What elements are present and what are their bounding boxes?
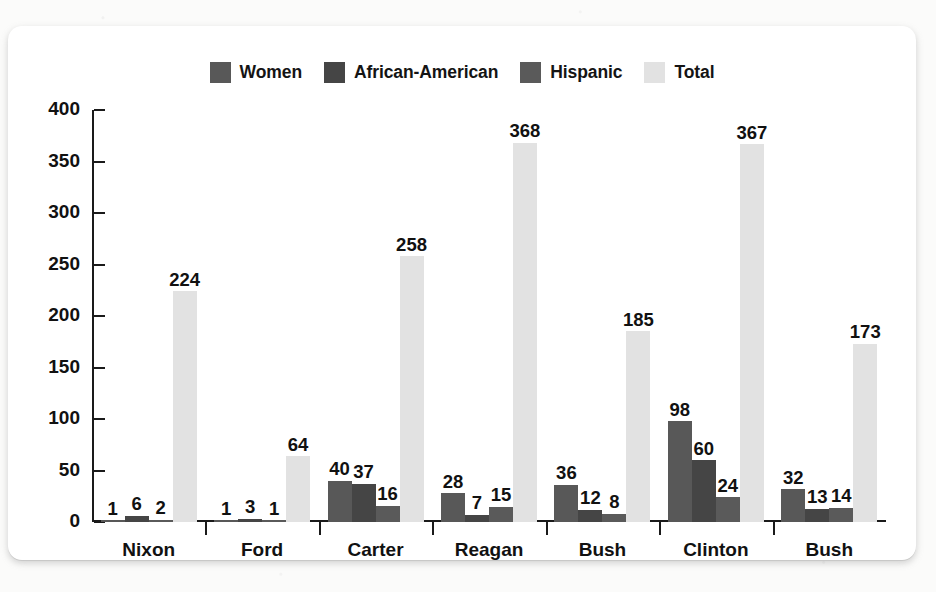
bar[interactable]: 24	[716, 497, 740, 522]
bar-value-label: 1	[221, 500, 231, 519]
bar-value-label: 36	[556, 464, 577, 483]
bar[interactable]: 36	[554, 485, 578, 522]
bar[interactable]: 40	[328, 481, 352, 522]
bar-group-bars: 162224	[101, 110, 197, 522]
bar-value-label: 8	[609, 493, 619, 512]
x-axis-category-label: Nixon	[92, 539, 205, 561]
legend-label-african-american: African-American	[354, 62, 498, 83]
bar-group-bars: 403716258	[328, 110, 424, 522]
bar-value-label: 32	[783, 469, 804, 488]
bar-value-label: 60	[694, 440, 715, 459]
scanned-page: Women African-American Hispanic Total 05…	[0, 0, 936, 592]
bar[interactable]: 12	[578, 510, 602, 522]
bar-value-label: 40	[329, 460, 350, 479]
bar-value-label: 15	[491, 486, 512, 505]
x-axis-separator-tick	[319, 522, 321, 535]
y-axis-tick-label: 300	[48, 201, 80, 223]
bar[interactable]: 1	[214, 520, 238, 522]
y-axis-tick-label: 200	[48, 304, 80, 326]
legend-label-hispanic: Hispanic	[550, 62, 622, 83]
bar[interactable]: 7	[465, 515, 489, 522]
bar-value-label: 3	[245, 498, 255, 517]
bar-value-label: 13	[807, 488, 828, 507]
bar[interactable]: 173	[853, 344, 877, 522]
bar-group-bars: 13164	[214, 110, 310, 522]
legend-item-african-american[interactable]: African-American	[324, 62, 498, 83]
legend-swatch-hispanic	[520, 62, 541, 83]
x-axis-separator-tick	[659, 522, 661, 535]
bar-value-label: 2	[156, 499, 166, 518]
bar[interactable]: 368	[513, 143, 537, 522]
y-axis-tick-label: 400	[48, 98, 80, 120]
bar[interactable]: 1	[101, 520, 125, 522]
bar[interactable]: 16	[376, 506, 400, 522]
bar-value-label: 224	[169, 271, 200, 290]
bar-group-bars: 321314173	[781, 110, 877, 522]
bar[interactable]: 367	[740, 144, 764, 522]
bar-value-label: 64	[288, 436, 309, 455]
bar[interactable]: 60	[692, 460, 716, 522]
bar-value-label: 98	[670, 401, 691, 420]
bar-group: 36128185Bush	[546, 110, 659, 522]
chart-card: Women African-American Hispanic Total 05…	[8, 26, 916, 560]
bar[interactable]: 13	[805, 509, 829, 522]
x-axis-separator-tick	[546, 522, 548, 535]
x-axis-separator-tick	[773, 522, 775, 535]
bar-group-bars: 36128185	[554, 110, 650, 522]
x-axis-category-label: Ford	[205, 539, 318, 561]
bar[interactable]: 258	[400, 256, 424, 522]
legend-item-women[interactable]: Women	[210, 62, 302, 83]
x-axis-category-label: Bush	[546, 539, 659, 561]
bar-group-bars: 986024367	[668, 110, 764, 522]
y-axis-tick-label: 150	[48, 356, 80, 378]
y-axis-tick-label: 100	[48, 407, 80, 429]
legend-label-women: Women	[240, 62, 302, 83]
bar[interactable]: 8	[602, 514, 626, 522]
bar-value-label: 258	[396, 236, 427, 255]
bar[interactable]: 14	[829, 508, 853, 522]
bar-value-label: 28	[443, 473, 464, 492]
bar[interactable]: 3	[238, 519, 262, 522]
x-axis-separator-tick	[432, 522, 434, 535]
bar-group: 162224Nixon	[92, 110, 205, 522]
legend-swatch-women	[210, 62, 231, 83]
bar[interactable]: 185	[626, 331, 650, 522]
bar[interactable]: 2	[149, 520, 173, 522]
bar-group: 321314173Bush	[773, 110, 886, 522]
bar-group-bars: 28715368	[441, 110, 537, 522]
legend-item-total[interactable]: Total	[644, 62, 714, 83]
bar-value-label: 24	[718, 477, 739, 496]
bar[interactable]: 32	[781, 489, 805, 522]
bar[interactable]: 64	[286, 456, 310, 522]
bar[interactable]: 15	[489, 507, 513, 522]
bar-value-label: 16	[377, 485, 398, 504]
chart-legend: Women African-American Hispanic Total	[8, 62, 916, 83]
bar[interactable]: 28	[441, 493, 465, 522]
bar-group: 28715368Reagan	[432, 110, 545, 522]
x-axis-category-label: Clinton	[659, 539, 772, 561]
bar-value-label: 1	[269, 500, 279, 519]
bar[interactable]: 1	[262, 520, 286, 522]
plot-area: 050100150200250300350400 162224Nixon1316…	[92, 110, 886, 522]
y-axis-tick-label: 350	[48, 150, 80, 172]
bar[interactable]: 224	[173, 291, 197, 522]
x-axis-separator-tick	[205, 522, 207, 535]
bar-value-label: 367	[736, 124, 767, 143]
y-axis-tick-label: 50	[59, 459, 80, 481]
bar-value-label: 368	[510, 122, 541, 141]
legend-label-total: Total	[674, 62, 714, 83]
y-axis-tick-label: 0	[69, 510, 80, 532]
bar-value-label: 7	[472, 494, 482, 513]
legend-swatch-total	[644, 62, 665, 83]
bar[interactable]: 37	[352, 484, 376, 522]
x-axis-category-label: Reagan	[432, 539, 545, 561]
bar[interactable]: 98	[668, 421, 692, 522]
bar-value-label: 1	[108, 500, 118, 519]
bar-group: 13164Ford	[205, 110, 318, 522]
bar[interactable]: 6	[125, 516, 149, 522]
bar-value-label: 173	[850, 323, 881, 342]
legend-swatch-african-american	[324, 62, 345, 83]
bar-group: 986024367Clinton	[659, 110, 772, 522]
legend-item-hispanic[interactable]: Hispanic	[520, 62, 622, 83]
bar-value-label: 12	[580, 489, 601, 508]
